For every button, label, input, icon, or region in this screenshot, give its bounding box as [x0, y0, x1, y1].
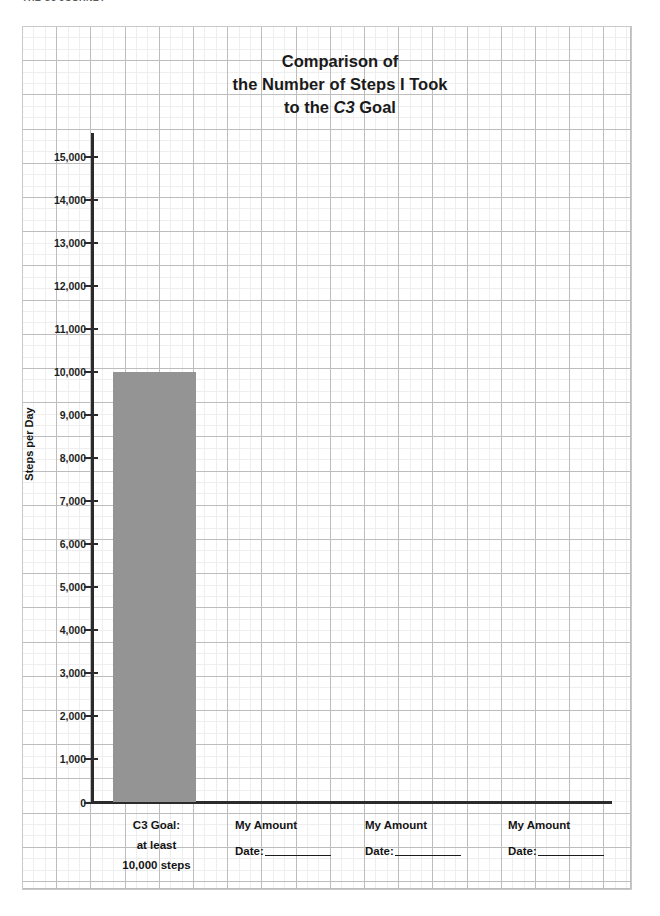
- y-axis-tick-mark: [84, 242, 98, 244]
- chart-title-line-1: Comparison of: [150, 50, 530, 73]
- date-input-blank[interactable]: [395, 855, 461, 856]
- category-label-line-2: at least: [100, 835, 213, 855]
- date-entry-row[interactable]: Date:: [508, 841, 638, 861]
- chart-title-emphasis: Number of Steps: [262, 75, 396, 93]
- x-axis-category-1: C3 Goal:at least10,000 steps: [100, 815, 213, 875]
- y-axis-tick-mark: [84, 629, 98, 631]
- y-axis-tick-mark: [84, 715, 98, 717]
- y-axis-tick-mark: [84, 199, 98, 201]
- y-axis-tick-label: 3,000: [0, 667, 86, 679]
- category-label-line-3: 10,000 steps: [100, 855, 213, 875]
- date-label: Date:: [365, 845, 394, 857]
- y-axis-tick-label: 11,000: [0, 323, 86, 335]
- y-axis-tick-mark: [84, 414, 98, 416]
- y-axis-line: [91, 133, 94, 804]
- date-input-blank[interactable]: [538, 855, 604, 856]
- chart-title-line-3: to the C3 Goal: [150, 96, 530, 119]
- chart-title-line-2-prefix: the: [233, 75, 262, 93]
- y-axis-tick-label: 1,000: [0, 753, 86, 765]
- y-axis-tick-label: 10,000: [0, 366, 86, 378]
- x-axis-category-4: My AmountDate:: [508, 815, 638, 861]
- y-axis-tick-label: 12,000: [0, 280, 86, 292]
- y-axis-tick-label: 7,000: [0, 495, 86, 507]
- y-axis-tick-mark: [84, 672, 98, 674]
- y-axis-tick-mark: [84, 156, 98, 158]
- date-entry-row[interactable]: Date:: [365, 841, 495, 861]
- chart-title: Comparison of the Number of Steps I Took…: [150, 50, 530, 119]
- y-axis-tick-label: 15,000: [0, 151, 86, 163]
- y-axis-tick-label: 9,000: [0, 409, 86, 421]
- y-axis-tick-mark: [84, 328, 98, 330]
- page-cutoff-header-text: THE C3 JOURNEY: [22, 0, 106, 3]
- page-cutoff-header: THE C3 JOURNEY: [0, 0, 660, 14]
- date-input-blank[interactable]: [265, 855, 331, 856]
- y-axis-tick-label: 8,000: [0, 452, 86, 464]
- date-entry-row[interactable]: Date:: [235, 841, 365, 861]
- y-axis-tick-label: 0: [0, 797, 86, 809]
- bar-c3-goal: [113, 372, 196, 802]
- category-label-line-1: My Amount: [365, 815, 495, 835]
- y-axis-tick-label: 14,000: [0, 194, 86, 206]
- category-label-line-1: My Amount: [235, 815, 365, 835]
- category-label-line-1: C3 Goal:: [100, 815, 213, 835]
- y-axis-tick-mark: [84, 371, 98, 373]
- y-axis-tick-mark: [84, 758, 98, 760]
- y-axis-tick-mark: [84, 500, 98, 502]
- y-axis-title: Steps per Day: [23, 389, 35, 499]
- y-axis-tick-label: 6,000: [0, 538, 86, 550]
- chart-title-line-2: the Number of Steps I Took: [150, 73, 530, 96]
- y-axis-tick-mark: [84, 543, 98, 545]
- x-axis-category-2: My AmountDate:: [235, 815, 365, 861]
- chart-title-c3-label: C3: [334, 98, 355, 116]
- chart-title-line-3-prefix: to the: [284, 98, 334, 116]
- chart-title-line-3-suffix: Goal: [355, 98, 396, 116]
- y-axis-tick-mark: [84, 802, 98, 804]
- y-axis-tick-mark: [84, 285, 98, 287]
- category-label-line-1: My Amount: [508, 815, 638, 835]
- y-axis-tick-mark: [84, 457, 98, 459]
- date-label: Date:: [235, 845, 264, 857]
- x-axis-category-3: My AmountDate:: [365, 815, 495, 861]
- date-label: Date:: [508, 845, 537, 857]
- y-axis-tick-label: 5,000: [0, 581, 86, 593]
- y-axis-tick-label: 4,000: [0, 624, 86, 636]
- y-axis-tick-label: 13,000: [0, 237, 86, 249]
- y-axis-tick-label: 2,000: [0, 710, 86, 722]
- chart-title-line-2-suffix: I Took: [395, 75, 447, 93]
- y-axis-tick-mark: [84, 586, 98, 588]
